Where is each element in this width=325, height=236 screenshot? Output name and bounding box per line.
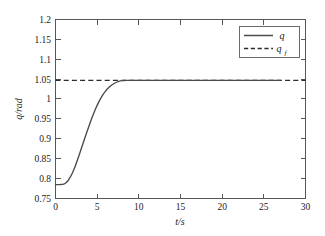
x-tick-label-5: 5 bbox=[95, 202, 100, 212]
x-tick-label-30: 30 bbox=[301, 202, 311, 212]
y-tick-label-1: 1 bbox=[46, 94, 51, 104]
y-tick-label-0.85: 0.85 bbox=[34, 154, 51, 164]
y-tick-label-1.2: 1.2 bbox=[39, 15, 51, 25]
legend-label-qf: q bbox=[277, 43, 282, 54]
x-tick-label-20: 20 bbox=[217, 202, 227, 212]
x-tick-label-15: 15 bbox=[176, 202, 186, 212]
y-tick-label-1.15: 1.15 bbox=[34, 35, 51, 45]
y-tick-label-0.8: 0.8 bbox=[39, 174, 51, 184]
y-tick-label-1.05: 1.05 bbox=[34, 75, 51, 85]
legend-box bbox=[240, 27, 300, 58]
x-tick-label-0: 0 bbox=[53, 202, 58, 212]
y-axis-label: q/rad bbox=[13, 97, 24, 120]
x-tick-label-10: 10 bbox=[134, 202, 144, 212]
x-tick-label-25: 25 bbox=[259, 202, 269, 212]
line-chart-svg: 1.2 1.15 1.1 1.05 1 0.95 0.9 0.85 0.8 0.… bbox=[0, 0, 325, 236]
y-tick-label-0.9: 0.9 bbox=[39, 134, 51, 144]
legend[interactable]: q q f bbox=[240, 27, 300, 58]
y-tick-label-0.75: 0.75 bbox=[34, 194, 51, 204]
x-axis-label: t/s bbox=[175, 216, 185, 227]
x-axis-tick-labels: 0 5 10 15 20 25 30 bbox=[53, 202, 310, 212]
y-tick-label-0.95: 0.95 bbox=[34, 114, 51, 124]
chart-figure: 1.2 1.15 1.1 1.05 1 0.95 0.9 0.85 0.8 0.… bbox=[0, 0, 325, 236]
y-axis-tick-labels: 1.2 1.15 1.1 1.05 1 0.95 0.9 0.85 0.8 0.… bbox=[34, 15, 51, 204]
y-tick-label-1.1: 1.1 bbox=[39, 55, 51, 65]
legend-label-q: q bbox=[280, 30, 285, 41]
